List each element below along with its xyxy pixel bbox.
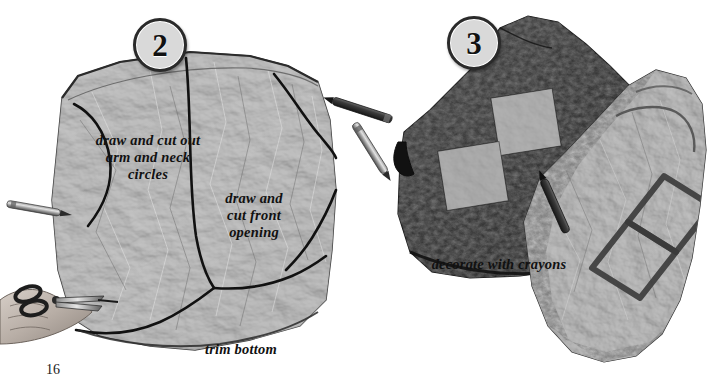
- crayon-upper-middle: [322, 94, 393, 124]
- caption-front-opening: draw and cut front opening: [214, 190, 294, 241]
- page-number: 16: [46, 362, 60, 378]
- caption-trim-bottom: trim bottom: [205, 341, 325, 358]
- step-badge-2: 2: [133, 18, 187, 72]
- crayon-lower-middle: [351, 121, 394, 183]
- artwork-layer: [0, 0, 715, 385]
- step-badge-3-label: 3: [466, 28, 482, 59]
- paper-bag-group: [40, 40, 360, 370]
- step-badge-2-label: 2: [152, 30, 168, 61]
- caption-arm-neck-circles: draw and cut out arm and neck circles: [92, 132, 204, 183]
- instruction-page: 2 3 draw and cut out arm and neck circle…: [0, 0, 715, 385]
- step-badge-3: 3: [447, 16, 501, 70]
- caption-decorate-with-crayons: decorate with crayons: [424, 256, 574, 273]
